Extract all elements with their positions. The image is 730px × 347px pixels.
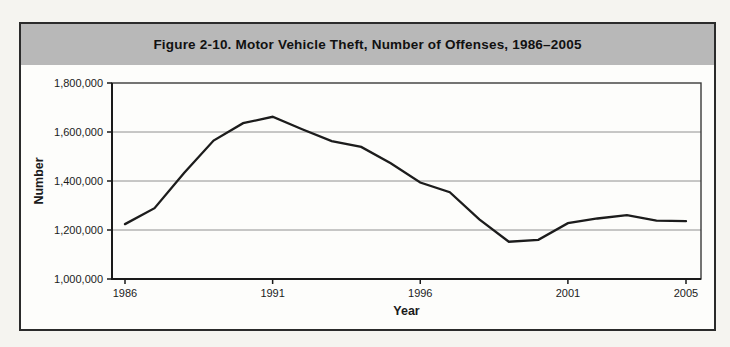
y-tick-label: 1,200,000 [54,224,103,236]
y-tick-label: 1,000,000 [54,273,103,285]
x-tick-label: 1996 [408,287,432,299]
chart-area: 1,000,0001,200,0001,400,0001,600,0001,80… [21,65,714,329]
figure-header-band: Figure 2-10. Motor Vehicle Theft, Number… [21,24,714,65]
y-tick-label: 1,600,000 [54,126,103,138]
x-tick-label: 1986 [113,287,137,299]
figure-title: Figure 2-10. Motor Vehicle Theft, Number… [153,37,581,52]
figure-box: Figure 2-10. Motor Vehicle Theft, Number… [19,22,716,331]
y-tick-label: 1,400,000 [54,175,103,187]
chart-svg: 1,000,0001,200,0001,400,0001,600,0001,80… [21,65,714,329]
x-tick-label: 1991 [260,287,284,299]
data-line [125,117,686,242]
x-tick-label: 2005 [674,287,698,299]
x-axis-title: Year [393,304,420,318]
x-tick-label: 2001 [556,287,580,299]
y-tick-label: 1,800,000 [54,77,103,89]
y-axis-title: Number [32,157,46,204]
